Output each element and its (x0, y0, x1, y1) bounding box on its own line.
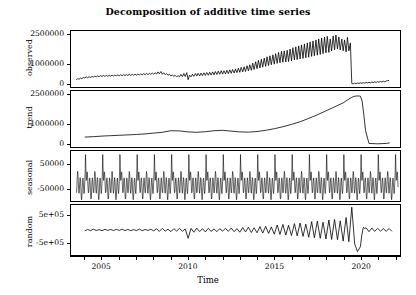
decomposition-chart: Decomposition of additive time series ob… (0, 0, 416, 295)
y-tick-random-0: -5e+05 (2, 238, 64, 247)
y-tick-mark (67, 164, 70, 165)
x-tick-2: 2015 (249, 262, 299, 271)
x-tick-mark (274, 257, 275, 260)
x-tick-mark (205, 257, 206, 260)
x-tick-mark (240, 257, 241, 260)
y-tick-mark (67, 189, 70, 190)
x-tick-mark (84, 257, 85, 260)
y-tick-observed-1: 1000000 (2, 59, 64, 68)
x-tick-mark (309, 257, 310, 260)
y-tick-trend-2: 2500000 (2, 89, 64, 98)
y-tick-mark (67, 124, 70, 125)
y-tick-mark (67, 243, 70, 244)
x-tick-mark (378, 257, 379, 260)
y-tick-mark (67, 64, 70, 65)
x-tick-mark (344, 257, 345, 260)
x-tick-1: 2010 (163, 262, 213, 271)
chart-title: Decomposition of additive time series (0, 6, 416, 17)
x-tick-mark (153, 257, 154, 260)
y-tick-mark (67, 94, 70, 95)
x-axis-label: Time (0, 275, 416, 285)
y-tick-observed-2: 2500000 (2, 29, 64, 38)
axis-label-seasonal: seasonal (25, 148, 34, 208)
x-tick-mark (257, 257, 258, 260)
y-tick-mark (67, 144, 70, 145)
y-tick-trend-0: 0 (2, 139, 64, 148)
x-tick-mark (101, 257, 102, 260)
panel-observed (70, 30, 401, 88)
x-tick-mark (223, 257, 224, 260)
y-tick-observed-0: 0 (2, 79, 64, 88)
x-axis-line (70, 256, 401, 257)
x-tick-mark (361, 257, 362, 260)
y-tick-random-1: 5e+05 (2, 210, 64, 219)
panel-trend (70, 90, 401, 148)
y-tick-seasonal-1: 50000 (2, 159, 64, 168)
y-tick-mark (67, 84, 70, 85)
y-tick-seasonal-0: -50000 (2, 184, 64, 193)
x-tick-mark (136, 257, 137, 260)
x-tick-mark (171, 257, 172, 260)
y-tick-trend-1: 1000000 (2, 119, 64, 128)
x-tick-mark (396, 257, 397, 260)
panel-seasonal (70, 150, 401, 202)
y-tick-mark (67, 34, 70, 35)
x-tick-3: 2020 (336, 262, 386, 271)
y-tick-mark (67, 215, 70, 216)
x-tick-mark (326, 257, 327, 260)
x-tick-mark (292, 257, 293, 260)
x-tick-mark (188, 257, 189, 260)
x-tick-0: 2005 (76, 262, 126, 271)
x-tick-mark (119, 257, 120, 260)
panel-random (70, 204, 401, 256)
